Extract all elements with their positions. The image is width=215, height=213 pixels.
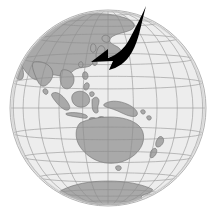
- landmass-korea: [91, 44, 97, 53]
- landmass-borneo: [72, 91, 90, 107]
- globe-figure: World globe orthographic projection cent…: [0, 0, 215, 213]
- globe-illustration: [0, 0, 215, 213]
- landmass-tasmania: [116, 166, 122, 171]
- landmass-sulawesi: [92, 97, 99, 113]
